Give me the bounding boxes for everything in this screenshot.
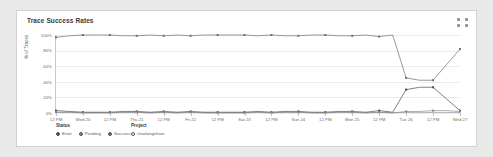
x-axis-tick-label: 12 PM	[427, 117, 439, 122]
expand-icon[interactable]	[457, 18, 468, 27]
x-axis-tick-mark	[433, 113, 434, 116]
series-point[interactable]	[378, 36, 380, 38]
x-axis-tick-label: 12 PM	[50, 117, 62, 122]
trace-success-rates-card: Trace Success Rates % of Traces 100%80%6…	[16, 10, 477, 147]
expand-icon-square-br	[465, 24, 468, 27]
legend-heading-status: Status	[56, 123, 130, 128]
y-axis-tick-label: 60%	[28, 64, 52, 69]
series-point[interactable]	[55, 36, 57, 38]
legend-swatch-icon	[131, 132, 135, 136]
series-point[interactable]	[405, 77, 407, 79]
y-axis-title: % of Traces	[24, 35, 29, 59]
x-axis-tick-mark	[271, 113, 272, 116]
legend-item-label: Pending	[85, 131, 101, 136]
gridline	[56, 113, 460, 114]
expand-icon-square-tr	[465, 18, 468, 21]
legend-item[interactable]: charlangchain	[131, 131, 164, 136]
series-point[interactable]	[324, 34, 326, 36]
x-axis-tick-label: 12 PM	[373, 117, 385, 122]
x-axis-tick-mark	[56, 113, 57, 116]
x-axis-tick-mark	[460, 113, 461, 116]
x-axis-tick-mark	[164, 113, 165, 116]
legend-swatch-icon	[56, 132, 60, 136]
chart-plot-area: % of Traces 100%80%60%40%20%0% 12 PMWed …	[17, 29, 478, 121]
series-point[interactable]	[432, 110, 434, 112]
series-point[interactable]	[136, 35, 138, 37]
x-axis-tick-mark	[325, 113, 326, 116]
y-axis-tick-label: 0%	[28, 111, 52, 116]
y-axis-tick-label: 80%	[28, 48, 52, 53]
series-point[interactable]	[351, 35, 353, 37]
legend-swatch-icon	[79, 132, 83, 136]
page-title: Trace Success Rates	[27, 17, 94, 24]
x-axis-tick-label: Fri 22	[185, 117, 196, 122]
x-axis-tick-mark	[137, 113, 138, 116]
legend-items-status: ErrorPendingSuccess	[56, 131, 130, 136]
x-axis-tick-label: 12 PM	[211, 117, 223, 122]
screenshot-root: Trace Success Rates % of Traces 100%80%6…	[0, 0, 493, 157]
y-axis-tick-label: 100%	[28, 33, 52, 38]
series-point[interactable]	[432, 79, 434, 81]
legend-item-label: Error	[62, 131, 72, 136]
x-axis-tick-mark	[298, 113, 299, 116]
chart-legend: Status ErrorPendingSuccess Project charl…	[56, 123, 476, 145]
x-axis-tick-mark	[191, 113, 192, 116]
expand-icon-square-bl	[457, 24, 460, 27]
expand-icon-square-tl	[457, 18, 460, 21]
legend-item-label: charlangchain	[137, 131, 164, 136]
x-axis-tick-label: Wed 20	[76, 117, 91, 122]
legend-items-project: charlangchain	[131, 131, 164, 136]
series-point[interactable]	[163, 35, 165, 37]
x-axis-tick-mark	[110, 113, 111, 116]
series-point[interactable]	[459, 48, 461, 50]
x-axis-tick-label: Wed 27	[453, 117, 468, 122]
legend-group-status: Status ErrorPendingSuccess	[56, 123, 130, 136]
legend-heading-project: Project	[131, 123, 164, 128]
series-point[interactable]	[270, 34, 272, 36]
x-axis-tick-label: Sat 23	[238, 117, 250, 122]
x-axis-tick-label: Mon 25	[345, 117, 359, 122]
x-axis-tick-label: Sun 24	[292, 117, 306, 122]
x-axis-tick-mark	[245, 113, 246, 116]
legend-item[interactable]: Pending	[79, 131, 101, 136]
x-axis-tick-label: 12 PM	[104, 117, 116, 122]
x-axis-tick-mark	[83, 113, 84, 116]
legend-swatch-icon	[108, 132, 112, 136]
series-point[interactable]	[109, 34, 111, 36]
x-axis-tick-mark	[218, 113, 219, 116]
series-point[interactable]	[297, 35, 299, 37]
series-line	[56, 35, 460, 80]
series-point[interactable]	[244, 34, 246, 36]
x-axis-tick-mark	[406, 113, 407, 116]
x-axis-tick-label: Tue 26	[400, 117, 413, 122]
y-axis-tick-label: 40%	[28, 80, 52, 85]
chart-series	[56, 35, 460, 113]
x-axis-tick-mark	[379, 113, 380, 116]
x-axis-tick-label: 12 PM	[319, 117, 331, 122]
x-axis-tick-label: 12 PM	[158, 117, 170, 122]
legend-item[interactable]: Success	[108, 131, 131, 136]
series-point[interactable]	[217, 34, 219, 36]
x-axis-tick-mark	[352, 113, 353, 116]
series-point[interactable]	[405, 89, 407, 91]
series-line	[56, 87, 460, 112]
y-axis-tick-label: 20%	[28, 95, 52, 100]
series-point[interactable]	[82, 34, 84, 36]
x-axis-tick-label: Thu 21	[130, 117, 143, 122]
legend-item-label: Success	[114, 131, 131, 136]
chart-canvas	[56, 35, 460, 113]
series-point[interactable]	[432, 86, 434, 88]
series-point[interactable]	[190, 35, 192, 37]
x-axis-tick-label: 12 PM	[265, 117, 277, 122]
legend-item[interactable]: Error	[56, 131, 72, 136]
legend-group-project: Project charlangchain	[131, 123, 164, 136]
